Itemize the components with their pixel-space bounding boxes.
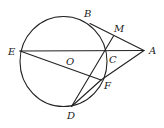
segment-ea bbox=[20, 51, 144, 52]
label-a: A bbox=[148, 45, 156, 56]
segment-fa bbox=[101, 51, 144, 81]
circle-o bbox=[20, 17, 107, 107]
geometry-diagram: B M E A O C F D bbox=[0, 0, 164, 128]
segment-df bbox=[72, 80, 102, 107]
segment-ef bbox=[20, 51, 101, 80]
label-m: M bbox=[113, 23, 125, 34]
label-f: F bbox=[103, 80, 112, 91]
label-d: D bbox=[66, 110, 75, 121]
label-b: B bbox=[83, 8, 91, 19]
label-e: E bbox=[7, 46, 16, 57]
label-c: C bbox=[109, 54, 117, 65]
label-o: O bbox=[66, 56, 74, 67]
